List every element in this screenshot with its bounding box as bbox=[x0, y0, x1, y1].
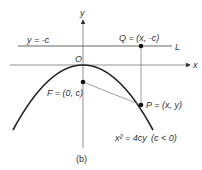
point-p bbox=[139, 103, 144, 108]
origin-label: O bbox=[75, 54, 82, 64]
figure-caption: (b) bbox=[76, 154, 87, 164]
directrix-equation-label: y = -c bbox=[26, 35, 50, 45]
f-to-p-segment bbox=[83, 82, 141, 105]
point-f-label: F = (0, c) bbox=[47, 88, 83, 98]
condition-label: (c < 0) bbox=[151, 133, 177, 143]
y-axis-label: y bbox=[79, 8, 85, 18]
parabola-diagram: y x O y = -c L Q = (x, -c) F = (0, c) P … bbox=[0, 0, 202, 170]
point-f bbox=[81, 80, 86, 85]
x-axis-label: x bbox=[192, 60, 198, 70]
directrix-name-label: L bbox=[175, 42, 180, 52]
point-p-label: P = (x, y) bbox=[146, 100, 182, 110]
point-q bbox=[139, 44, 144, 49]
point-q-label: Q = (x, -c) bbox=[119, 33, 159, 43]
equation-label: x² = 4cy bbox=[114, 133, 147, 143]
